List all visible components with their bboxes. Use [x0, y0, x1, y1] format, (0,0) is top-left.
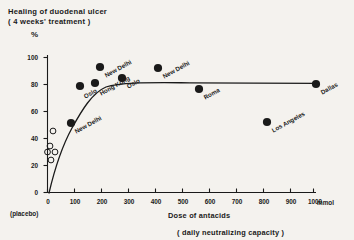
placebo-points [45, 128, 58, 163]
plot-canvas [0, 0, 354, 240]
x-tick-marks [48, 189, 314, 193]
fit-curve [49, 83, 318, 193]
y-tick-marks [44, 58, 48, 193]
chart-figure: Healing of duodenal ulcer ( 4 weeks' tre… [0, 0, 354, 240]
